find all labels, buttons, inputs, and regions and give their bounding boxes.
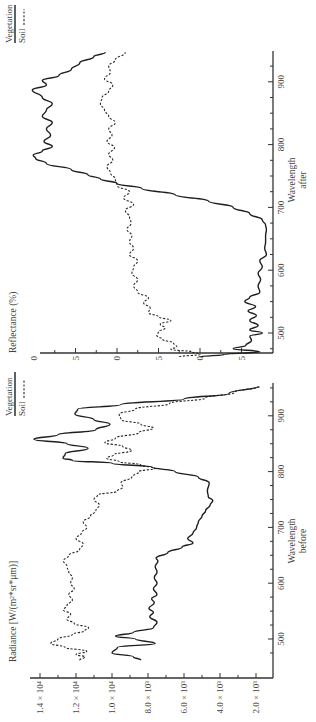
y-tick-label: 1.0 × 10⁴ — [107, 681, 117, 714]
y-tick-label: 1.2 × 10⁴ — [71, 681, 81, 714]
x-tick-label: 900 — [276, 75, 286, 89]
x-axis-subtitle: after — [298, 170, 308, 188]
x-tick-label: 500 — [276, 326, 286, 340]
chart-after-reflectance: 5006007008009000.150.200.250.300.350.40 … — [0, 0, 316, 361]
x-tick-label: 500 — [276, 632, 286, 646]
x-axis-subtitle: before — [298, 529, 308, 553]
legend-vegetation-label: Vegetation — [4, 377, 14, 416]
x-axis-title: Wavelength — [287, 518, 297, 563]
soil-series-line — [51, 386, 260, 660]
x-tick-label: 600 — [276, 263, 286, 277]
x-axis-title: Wavelength — [287, 157, 297, 202]
x-tick-label: 800 — [276, 137, 286, 151]
soil-series-line — [100, 52, 200, 357]
reflectance-chart-svg: 5006007008009000.150.200.250.300.350.40 … — [0, 0, 316, 361]
vegetation-series-line — [34, 386, 258, 660]
x-tick-label: 700 — [276, 520, 286, 534]
x-tick-label: 600 — [276, 576, 286, 590]
y-tick-label: 8.0 × 10³ — [143, 681, 153, 714]
y-tick-label: 4.0 × 10³ — [215, 681, 225, 714]
x-tick-label: 800 — [276, 464, 286, 478]
y-tick-label: 1.4 × 10⁴ — [35, 681, 45, 714]
legend-soil-label: Soil — [17, 28, 27, 43]
legend: Vegetation Soil — [4, 4, 27, 43]
chart-before-radiance: 5006007008009002.0 × 10³4.0 × 10³6.0 × 1… — [0, 361, 316, 722]
y-axis-title: Radiance [W/(m²*sr*μm)] — [8, 561, 19, 662]
y-tick-label: 6.0 × 10³ — [179, 681, 189, 714]
legend-vegetation-label: Vegetation — [4, 4, 14, 43]
legend: Vegetation Soil — [4, 372, 27, 416]
y-axis-title: Reflectance (%) — [8, 292, 19, 353]
x-tick-label: 900 — [276, 409, 286, 423]
x-tick-label: 700 — [276, 200, 286, 214]
y-tick-label: 2.0 × 10³ — [251, 681, 261, 714]
grid-and-axes: 5006007008009000.150.200.250.300.350.40 — [29, 51, 286, 361]
legend-soil-label: Soil — [17, 401, 27, 416]
radiance-chart-svg: 5006007008009002.0 × 10³4.0 × 10³6.0 × 1… — [0, 361, 316, 722]
